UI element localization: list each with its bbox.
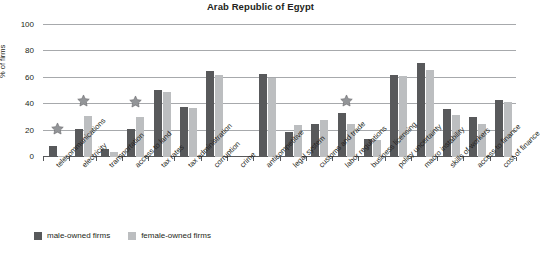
y-tick-label: 100 [21, 21, 34, 29]
bar-male-owned [259, 74, 267, 157]
significance-star-icon [51, 122, 64, 135]
bar-group [178, 25, 204, 157]
bar-group [99, 25, 125, 157]
significance-star-icon [340, 94, 353, 107]
y-tick-label: 40 [25, 100, 34, 108]
significance-star-icon [77, 94, 90, 107]
legend-swatch [128, 232, 136, 240]
y-axis-tick-labels: 020406080100 [0, 25, 38, 157]
plot-area [43, 25, 516, 157]
legend-item: male-owned firms [34, 231, 110, 240]
bar-group [257, 25, 283, 157]
bar-female-owned [189, 108, 197, 157]
bar-female-owned [268, 78, 276, 157]
legend-swatch [34, 232, 42, 240]
bar-female-owned [399, 76, 407, 157]
y-tick-label: 60 [25, 74, 34, 82]
y-tick-label: 20 [25, 127, 34, 135]
bar-group [47, 25, 73, 157]
x-tickmark [43, 157, 44, 161]
legend-label: female-owned firms [141, 231, 211, 240]
bar-female-owned [163, 92, 171, 157]
chart-legend: male-owned firmsfemale-owned firms [34, 231, 211, 240]
legend-item: female-owned firms [128, 231, 211, 240]
significance-star-icon [129, 95, 142, 108]
y-tick-label: 0 [30, 153, 34, 161]
legend-label: male-owned firms [47, 231, 110, 240]
chart-title: Arab Republic of Egypt [0, 1, 521, 12]
y-tick-label: 80 [25, 47, 34, 55]
bar-male-owned [49, 146, 57, 157]
bar-group [231, 25, 257, 157]
